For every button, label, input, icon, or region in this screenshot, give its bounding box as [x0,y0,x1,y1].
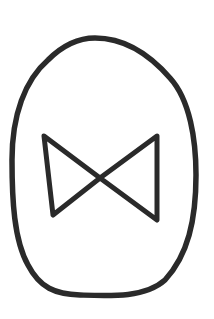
bowtie-left-triangle [44,136,100,215]
bowtie-right-triangle [100,136,157,220]
symbol-drawing [0,0,214,319]
oval-outline [12,38,196,296]
symbol-svg [0,0,214,319]
